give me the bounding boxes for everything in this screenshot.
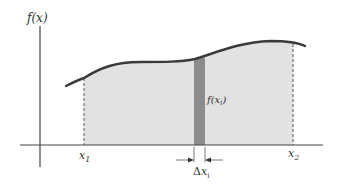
x1-label: x1 xyxy=(79,149,90,164)
x2-label: x2 xyxy=(288,147,299,162)
strip-width-label: Δxi xyxy=(193,165,210,180)
riemann-strip xyxy=(194,58,205,145)
area-under-curve xyxy=(84,41,293,145)
y-axis-label: f(x) xyxy=(26,11,48,25)
arrow-left-icon xyxy=(205,158,223,163)
riemann-diagram: f(x) x1 x2 f(xi) Δxi xyxy=(0,0,339,187)
arrow-right-icon xyxy=(176,158,194,163)
